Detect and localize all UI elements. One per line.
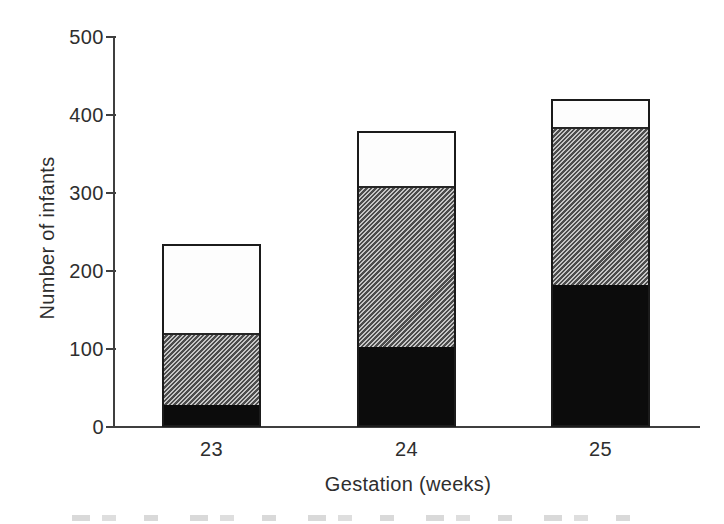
y-tick-mark [106,114,116,116]
y-tick-label: 200 [32,259,104,283]
cropped-caption-fragment [72,515,650,521]
x-tick-label: 23 [172,438,252,461]
bar-23-segment-hatched [164,333,259,406]
y-tick-label: 300 [32,181,104,205]
y-tick-mark [106,270,116,272]
bar-25-segment-black [553,285,648,425]
scanned-figure-page: Number of infants 0100200300400500 23242… [0,0,724,524]
y-tick-label: 400 [32,103,104,127]
y-tick-mark [106,192,116,194]
y-tick-mark [106,36,116,38]
x-axis-title: Gestation (weeks) [288,473,528,496]
bar-23 [162,244,261,427]
y-tick-label: 500 [32,25,104,49]
y-axis-line [113,36,115,428]
bar-23-segment-white [164,244,259,333]
bar-23-segment-black [164,405,259,425]
x-tick-label: 24 [367,438,447,461]
bar-25-segment-white [553,99,648,127]
y-tick-label: 0 [32,415,104,439]
y-tick-mark [106,348,116,350]
bar-24 [357,131,456,427]
bar-24-segment-black [359,347,454,425]
bar-25-segment-hatched [553,127,648,285]
bar-24-segment-white [359,131,454,186]
y-tick-label: 100 [32,337,104,361]
bar-24-segment-hatched [359,186,454,347]
y-tick-mark [106,426,116,428]
x-tick-label: 25 [561,438,641,461]
bar-25 [551,99,650,427]
